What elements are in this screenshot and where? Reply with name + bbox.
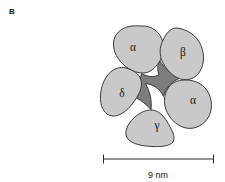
scale-bar-label: 9 nm: [148, 170, 168, 180]
subunit-label-alpha-right: α: [190, 94, 196, 106]
subunit-label-gamma-bottom: γ: [153, 119, 159, 132]
subunit-label-delta-left: δ: [119, 87, 124, 99]
subunit-alpha-right: [164, 80, 211, 128]
subunit-gamma-bottom: [126, 110, 174, 147]
figure-panel-b: B α β α γ δ 9 nm: [0, 0, 225, 182]
subunit-label-alpha-top-left: α: [130, 41, 136, 53]
receptor-diagram: α β α γ δ 9 nm: [0, 0, 225, 182]
subunit-alpha-top-left: [113, 26, 164, 73]
subunit-label-beta-top-right: β: [180, 46, 186, 59]
scale-bar: [103, 155, 214, 164]
